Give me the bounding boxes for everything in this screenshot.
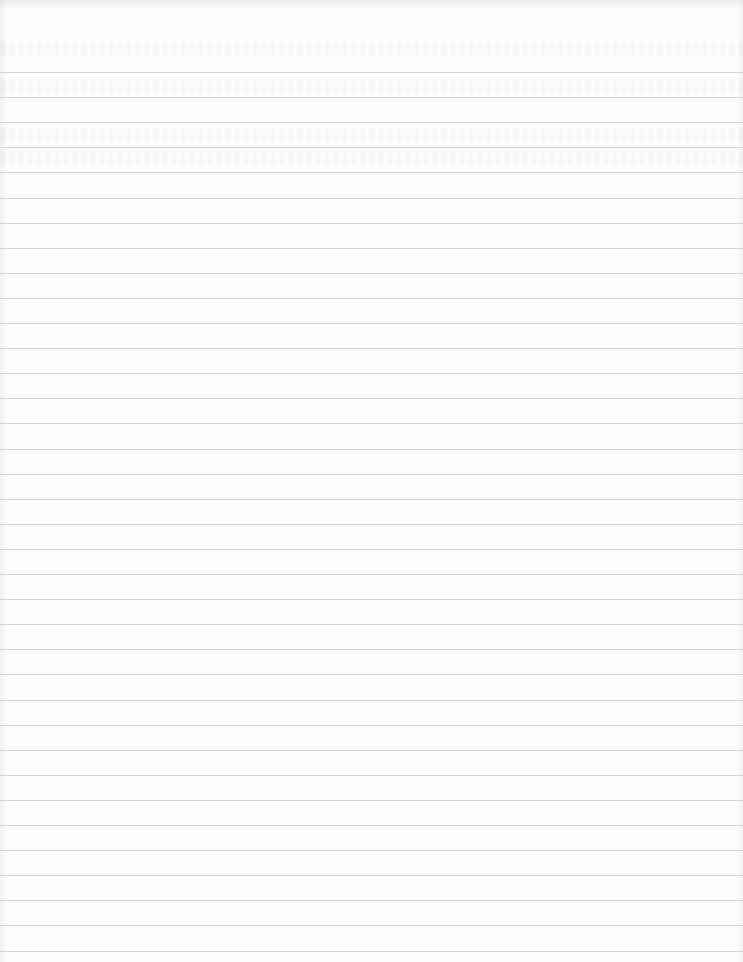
ruled-line bbox=[0, 298, 743, 299]
ruled-line bbox=[0, 725, 743, 726]
ruled-line bbox=[0, 248, 743, 249]
show-through-text bbox=[0, 42, 743, 56]
ruled-line bbox=[0, 700, 743, 701]
ruled-line bbox=[0, 649, 743, 650]
ruled-line bbox=[0, 925, 743, 926]
ruled-line bbox=[0, 97, 743, 98]
ruled-line bbox=[0, 172, 743, 173]
ruled-line bbox=[0, 373, 743, 374]
ruled-line bbox=[0, 574, 743, 575]
ruled-line bbox=[0, 273, 743, 274]
ruled-line bbox=[0, 624, 743, 625]
ruled-line bbox=[0, 122, 743, 123]
ruled-line bbox=[0, 198, 743, 199]
ruled-line bbox=[0, 599, 743, 600]
ruled-line bbox=[0, 524, 743, 525]
ruled-line bbox=[0, 223, 743, 224]
ruled-line bbox=[0, 348, 743, 349]
ruled-line bbox=[0, 72, 743, 73]
ruled-line bbox=[0, 900, 743, 901]
ruled-line bbox=[0, 825, 743, 826]
lined-paper-sheet bbox=[0, 0, 743, 962]
ruled-line bbox=[0, 147, 743, 148]
show-through-text bbox=[0, 150, 743, 164]
show-through-text bbox=[0, 128, 743, 142]
ruled-line bbox=[0, 398, 743, 399]
ruled-line bbox=[0, 775, 743, 776]
ruled-line bbox=[0, 449, 743, 450]
ruled-line bbox=[0, 875, 743, 876]
ruled-line bbox=[0, 674, 743, 675]
ruled-line bbox=[0, 549, 743, 550]
ruled-line bbox=[0, 474, 743, 475]
ruled-line bbox=[0, 423, 743, 424]
ruled-line bbox=[0, 850, 743, 851]
ruled-line bbox=[0, 951, 743, 952]
ruled-line bbox=[0, 800, 743, 801]
ruled-line bbox=[0, 499, 743, 500]
show-through-text bbox=[0, 80, 743, 94]
ruled-line bbox=[0, 750, 743, 751]
ruled-line bbox=[0, 323, 743, 324]
